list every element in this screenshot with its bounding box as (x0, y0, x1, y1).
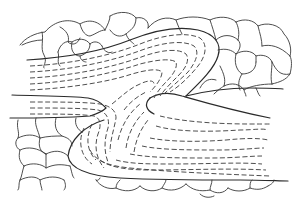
fold-layers-lower (81, 116, 270, 176)
fold-diagram (0, 0, 307, 211)
fold-boundary-left-tongue (10, 95, 106, 118)
figure-caption (40, 204, 270, 211)
lower-right-cobbles (96, 178, 274, 197)
lower-left-cobbles (16, 118, 82, 190)
fold-boundary-right-tongue (147, 93, 270, 118)
